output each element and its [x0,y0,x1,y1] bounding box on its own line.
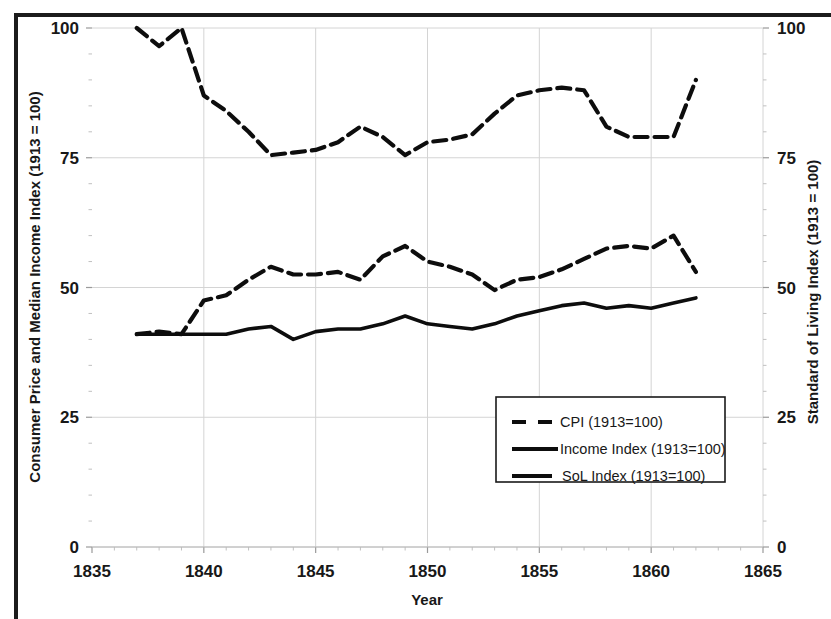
y-tick-label: 100 [51,19,79,38]
x-tick-label: 1860 [632,562,670,581]
x-tick-label: 1835 [73,562,111,581]
legend-label: SoL Index (1913=100) [562,468,705,484]
y2-tick-label: 25 [777,408,796,427]
legend-label: CPI (1913=100) [560,414,663,430]
y2-axis-tick-labels: 0255075100 [777,19,805,557]
y2-tick-label: 50 [777,279,796,298]
chart-page: 0255075100 0255075100 183518401845185018… [0,0,831,619]
y-axis-tick-labels: 0255075100 [51,19,79,557]
y2-axis-title: Standard of Living Index (1913 = 100) [804,160,821,425]
y-tick-label: 0 [70,538,79,557]
x-tick-label: 1865 [744,562,782,581]
y2-tick-label: 100 [777,19,805,38]
x-axis-tick-labels: 1835184018451850185518601865 [73,562,782,581]
chart-figure: 0255075100 0255075100 183518401845185018… [0,0,831,619]
x-axis-title: Year [411,591,443,608]
chart-legend[interactable]: CPI (1913=100)Income Index (1913=100)SoL… [496,397,726,484]
x-tick-label: 1840 [185,562,223,581]
x-tick-label: 1855 [520,562,558,581]
series-line-cpi [137,28,696,155]
data-series-group [137,28,696,339]
x-tick-label: 1845 [297,562,335,581]
x-tick-label: 1850 [409,562,447,581]
y2-tick-label: 0 [777,538,786,557]
legend-label: Income Index (1913=100) [560,441,726,457]
series-line-sol [137,298,696,340]
y-tick-label: 75 [60,149,79,168]
line-chart-svg: 0255075100 0255075100 183518401845185018… [0,0,831,619]
y-axis-title: Consumer Price and Median Income Index (… [26,91,43,482]
y-tick-label: 25 [60,408,79,427]
y2-tick-label: 75 [777,149,796,168]
y-tick-label: 50 [60,279,79,298]
